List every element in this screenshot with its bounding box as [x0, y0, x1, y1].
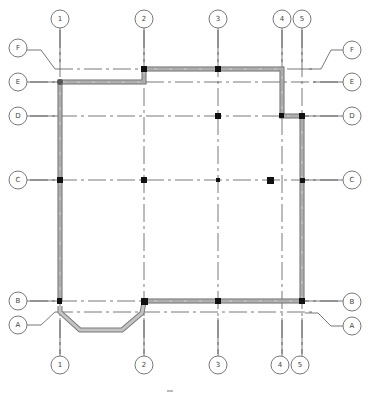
- bubble-right-B: B: [343, 293, 361, 311]
- bubble-left-D: D: [9, 107, 27, 125]
- structural-columns: [57, 66, 305, 305]
- svg-text:5: 5: [298, 361, 302, 369]
- bubble-bottom-2: 2: [135, 356, 153, 374]
- bubble-left-A: A: [9, 316, 27, 334]
- bubble-left-F: F: [9, 39, 27, 57]
- bay-window-wall: [60, 302, 144, 330]
- bubble-left-C: C: [9, 171, 27, 189]
- bubble-right-A: A: [343, 317, 361, 335]
- floor-plan-drawing: 1 2 3 4 5 1 2 3 4 5 F E D C B A F E D C …: [0, 0, 372, 393]
- svg-text:3: 3: [216, 15, 220, 23]
- svg-text:B: B: [350, 298, 355, 306]
- bubble-right-F: F: [343, 41, 361, 59]
- column-2C: [141, 177, 147, 183]
- svg-text:4: 4: [280, 15, 285, 23]
- svg-text:B: B: [16, 297, 21, 305]
- column-3F: [215, 66, 221, 72]
- bubble-right-E: E: [343, 73, 361, 91]
- bubble-top-4: 4: [273, 10, 291, 28]
- column-5B: [299, 298, 305, 304]
- bubble-top-5: 5: [293, 10, 311, 28]
- svg-text:C: C: [16, 176, 21, 184]
- svg-text:D: D: [15, 112, 20, 120]
- svg-text:5: 5: [300, 15, 304, 23]
- column-2B: [141, 298, 148, 305]
- bubble-bottom-3: 3: [209, 356, 227, 374]
- column-4D: [279, 113, 284, 118]
- column-1C: [57, 177, 63, 183]
- bubble-top-1: 1: [51, 10, 69, 28]
- bubble-left-B: B: [9, 292, 27, 310]
- bubble-bottom-4: 4: [271, 356, 289, 374]
- bubble-left-E: E: [9, 73, 27, 91]
- walls: [60, 69, 302, 330]
- bubble-bottom-5: 5: [291, 356, 309, 374]
- column-1E: [57, 79, 63, 85]
- column-1B: [57, 298, 62, 304]
- svg-text:2: 2: [142, 15, 146, 23]
- svg-text:E: E: [16, 78, 20, 86]
- column-3D: [215, 113, 221, 119]
- bubble-leaders: [27, 28, 343, 356]
- column-C-extra: [267, 177, 274, 184]
- column-5C: [300, 178, 305, 183]
- svg-text:4: 4: [278, 361, 283, 369]
- column-2F: [141, 66, 147, 72]
- bubble-top-3: 3: [209, 10, 227, 28]
- svg-text:3: 3: [216, 361, 220, 369]
- svg-text:1: 1: [58, 15, 62, 23]
- svg-text:A: A: [16, 321, 21, 329]
- column-5D: [299, 113, 305, 119]
- bubble-right-C: C: [343, 171, 361, 189]
- svg-text:D: D: [349, 112, 354, 120]
- bubble-bottom-1: 1: [51, 356, 69, 374]
- svg-text:2: 2: [142, 361, 146, 369]
- bubble-top-2: 2: [135, 10, 153, 28]
- svg-text:F: F: [16, 44, 20, 52]
- svg-text:F: F: [350, 46, 354, 54]
- svg-text:1: 1: [58, 361, 62, 369]
- wall-outline: [60, 69, 302, 302]
- column-3B: [215, 298, 221, 304]
- svg-text:C: C: [350, 176, 355, 184]
- svg-text:E: E: [350, 78, 354, 86]
- scale-mark: [167, 390, 173, 392]
- grid-lines: [30, 30, 340, 354]
- bubble-right-D: D: [343, 107, 361, 125]
- column-3C: [216, 178, 220, 182]
- svg-text:A: A: [350, 322, 355, 330]
